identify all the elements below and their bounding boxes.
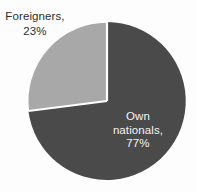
slice-label-own-nationals: Own nationals, 77% (100, 110, 176, 151)
slice-label-foreigners: Foreigners, 23% (2, 9, 68, 38)
pie-chart: Foreigners, 23% Own nationals, 77% (0, 0, 197, 192)
slice-label-foreigners-name: Foreigners, (2, 9, 68, 24)
slice-label-own-nationals-line1: Own (100, 110, 176, 124)
slice-label-own-nationals-value: 77% (100, 137, 176, 151)
slice-label-foreigners-value: 23% (2, 24, 68, 39)
slice-label-own-nationals-line2: nationals, (100, 124, 176, 138)
